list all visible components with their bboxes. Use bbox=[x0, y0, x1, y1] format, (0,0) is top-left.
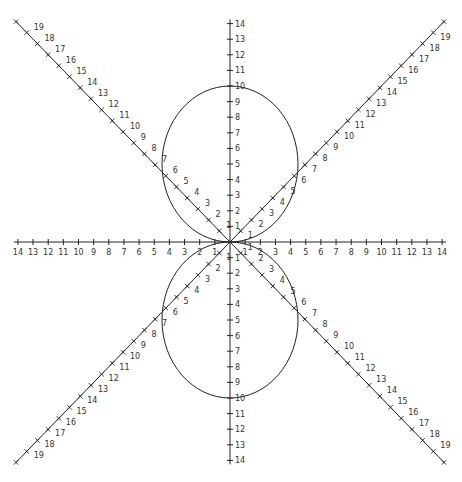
tick-mark bbox=[57, 416, 61, 420]
axis-label: 6 bbox=[235, 332, 240, 341]
tick-mark bbox=[367, 97, 371, 101]
axis-label: 12 bbox=[407, 248, 417, 257]
tick-mark bbox=[25, 30, 29, 34]
tick-mark bbox=[431, 449, 435, 453]
diagonal-label: 15 bbox=[398, 77, 408, 86]
diagonal-label: 3 bbox=[269, 209, 274, 218]
diagonal-label: 13 bbox=[98, 89, 108, 98]
tick-mark bbox=[324, 141, 328, 145]
axis-label: 4 bbox=[235, 300, 240, 309]
tick-mark bbox=[121, 350, 125, 354]
axis-label: 2 bbox=[235, 207, 240, 216]
tick-mark bbox=[67, 74, 71, 78]
tick-mark bbox=[271, 284, 275, 288]
diagonal-label: 4 bbox=[194, 188, 199, 197]
tick-mark bbox=[356, 108, 360, 112]
tick-mark bbox=[346, 361, 350, 365]
axis-label: 13 bbox=[235, 35, 245, 44]
tick-mark bbox=[399, 63, 403, 67]
tick-mark bbox=[185, 284, 189, 288]
axis-label: 11 bbox=[235, 66, 245, 75]
axis-label: 5 bbox=[303, 248, 308, 257]
diagonal-label: 17 bbox=[419, 55, 429, 64]
tick-mark bbox=[89, 97, 93, 101]
tick-mark bbox=[249, 262, 253, 266]
diagonal-label: 14 bbox=[387, 386, 397, 395]
axis-label: 10 bbox=[235, 394, 245, 403]
diagonal-label: 18 bbox=[44, 440, 54, 449]
diagonal-label: 16 bbox=[66, 418, 76, 427]
tick-mark bbox=[110, 361, 114, 365]
tick-mark bbox=[196, 273, 200, 277]
diagonal-label: 15 bbox=[398, 397, 408, 406]
axis-label: 14 bbox=[13, 248, 23, 257]
axis-label: 8 bbox=[235, 363, 240, 372]
diagonal-label: 12 bbox=[365, 364, 375, 373]
diagonal-label: 11 bbox=[355, 353, 365, 362]
tick-mark bbox=[410, 427, 414, 431]
tick-mark bbox=[78, 86, 82, 90]
diagonal-label: 10 bbox=[344, 132, 354, 141]
tick-mark bbox=[14, 460, 18, 464]
tick-mark bbox=[249, 218, 253, 222]
diagonal-label: 16 bbox=[66, 56, 76, 65]
tick-mark bbox=[442, 460, 446, 464]
tick-mark bbox=[206, 262, 210, 266]
tick-mark bbox=[324, 339, 328, 343]
diagonal-label: 12 bbox=[109, 100, 119, 109]
axis-label: 11 bbox=[392, 248, 402, 257]
axis-label: 14 bbox=[235, 456, 245, 465]
axis-label: 6 bbox=[137, 248, 142, 257]
tick-mark bbox=[153, 163, 157, 167]
tick-mark bbox=[217, 229, 221, 233]
diagonal-label: 3 bbox=[205, 275, 210, 284]
diagonal-label: 13 bbox=[376, 375, 386, 384]
diagram-canvas: 1122334455667788991010111112121313141411… bbox=[0, 0, 462, 482]
tick-mark bbox=[281, 185, 285, 189]
axis-label: 9 bbox=[235, 378, 240, 387]
axis-label: 14 bbox=[437, 248, 447, 257]
tick-mark bbox=[35, 41, 39, 45]
diagonal-label: 10 bbox=[344, 342, 354, 351]
polar-diagram: 1122334455667788991010111112121313141411… bbox=[0, 0, 462, 482]
tick-mark bbox=[25, 449, 29, 453]
tick-mark bbox=[99, 108, 103, 112]
tick-mark bbox=[46, 427, 50, 431]
diagonal-label: 2 bbox=[258, 254, 263, 263]
axis-label: 3 bbox=[235, 285, 240, 294]
axis-label: 7 bbox=[235, 129, 240, 138]
tick-mark bbox=[196, 207, 200, 211]
axis-label: 7 bbox=[334, 248, 339, 257]
diagonal-label: 9 bbox=[333, 143, 338, 152]
axis-label: 5 bbox=[152, 248, 157, 257]
axis-label: 3 bbox=[182, 248, 187, 257]
tick-mark bbox=[110, 119, 114, 123]
tick-mark bbox=[335, 130, 339, 134]
tick-mark bbox=[420, 41, 424, 45]
diagonal-label: 6 bbox=[301, 298, 306, 307]
diagonal-label: 12 bbox=[109, 374, 119, 383]
diagonal-label: 2 bbox=[216, 264, 221, 273]
tick-mark bbox=[271, 196, 275, 200]
axis-label: 8 bbox=[349, 248, 354, 257]
tick-mark bbox=[185, 196, 189, 200]
diagonal-label: 1 bbox=[248, 243, 253, 252]
diagonal-label: 4 bbox=[280, 198, 285, 207]
axis-label: 12 bbox=[235, 425, 245, 434]
diagonal-label: 6 bbox=[301, 176, 306, 185]
diagonal-label: 1 bbox=[226, 253, 231, 262]
axis-label: 10 bbox=[376, 248, 386, 257]
diagonal-label: 5 bbox=[184, 297, 189, 306]
tick-mark bbox=[35, 438, 39, 442]
diagonal-label: 12 bbox=[365, 110, 375, 119]
diagonal-label: 6 bbox=[173, 308, 178, 317]
tick-mark bbox=[313, 152, 317, 156]
tick-mark bbox=[442, 19, 446, 23]
diagonal-label: 11 bbox=[355, 121, 365, 130]
axis-label: 13 bbox=[422, 248, 432, 257]
diagonal-label: 2 bbox=[216, 210, 221, 219]
diagonal-label: 6 bbox=[173, 166, 178, 175]
diagonal-label: 18 bbox=[430, 430, 440, 439]
tick-mark bbox=[46, 52, 50, 56]
diagonal-label: 3 bbox=[205, 199, 210, 208]
